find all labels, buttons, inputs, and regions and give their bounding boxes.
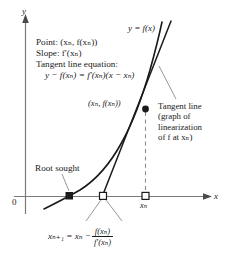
newton-leader-line-right [106, 200, 122, 221]
origin-label: 0 [12, 197, 17, 208]
xn-marker-open-square [142, 192, 149, 199]
tangent-note-line-4: of f at xₙ) [158, 132, 224, 142]
y-axis-label: y [22, 6, 26, 17]
newton-iteration-formula: xₙ₊₁ = xₙ −f(xₙ)f′(xₙ) [48, 226, 114, 247]
tangent-line-note: Tangent line (graph of linearization of … [158, 101, 224, 143]
slope-annotation-line: Slope: f′(xₙ) [36, 48, 186, 59]
newton-formula-fraction: f(xₙ)f′(xₙ) [92, 226, 113, 247]
point-on-curve-dot [142, 106, 149, 113]
root-marker-filled-square [66, 192, 74, 200]
curve-label: y = f(x) [128, 23, 155, 34]
x-axis-label: x [214, 191, 218, 202]
tangent-note-line-3: linearization [158, 122, 224, 132]
x-axis [14, 193, 212, 200]
tangent-equation-line: y − f(xₙ) = f′(xₙ)(x − xₙ) [36, 70, 186, 81]
point-on-curve-label: (xₙ, f(xₙ)) [88, 98, 121, 108]
root-sought-label: Root sought [35, 163, 80, 174]
tangent-note-line-1: Tangent line [158, 101, 224, 111]
newton-formula-denominator: f′(xₙ) [92, 237, 113, 247]
tangent-note-line-2: (graph of [158, 111, 224, 121]
next-iterate-marker-open-square [100, 192, 107, 199]
newton-leader-line-left [86, 200, 101, 221]
root-leader-line [62, 174, 69, 191]
newtons-method-figure: y x 0 y = f(x) Point: (xₙ, f(xₙ)) Slope:… [0, 0, 226, 260]
y-axis [22, 14, 29, 214]
tangent-equation-heading: Tangent line equation: [36, 59, 186, 70]
newton-formula-numerator: f(xₙ) [92, 226, 113, 237]
point-annotation-line: Point: (xₙ, f(xₙ)) [36, 37, 186, 48]
annotation-block: Point: (xₙ, f(xₙ)) Slope: f′(xₙ) Tangent… [36, 37, 186, 80]
xn-tick-label: xₙ [140, 201, 147, 211]
newton-formula-lhs: xₙ₊₁ = xₙ − [48, 231, 91, 241]
